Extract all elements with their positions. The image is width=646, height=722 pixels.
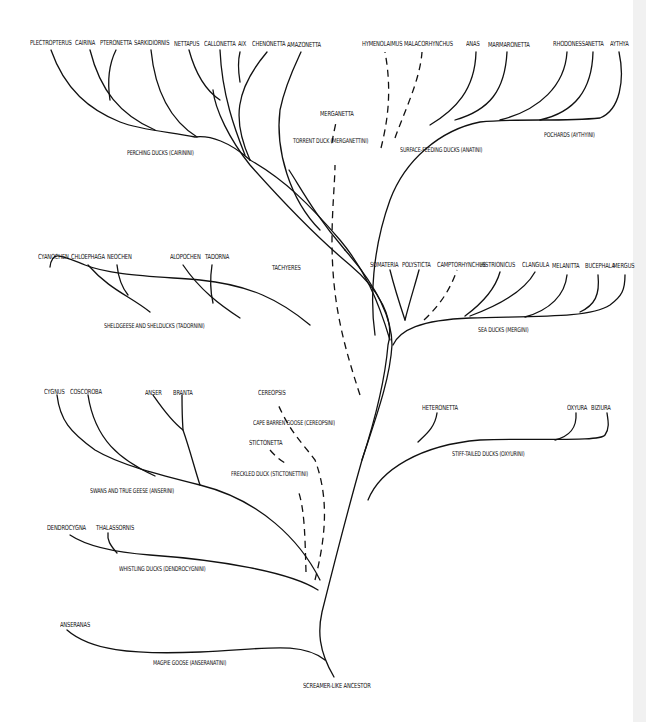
genus-label-neochen: NEOCHEN	[107, 253, 132, 261]
genus-label-malacorhynchus: MALACORHYNCHUS	[404, 40, 453, 48]
branch-oxyura	[555, 413, 576, 440]
branch-marmaronetta	[455, 52, 507, 120]
genus-label-marmaronetta: MARMARONETTA	[488, 41, 530, 49]
genus-label-heteronetta: HETERONETTA	[422, 404, 458, 412]
genus-label-stictonetta: STICTONETTA	[249, 439, 282, 447]
genus-label-oxyura: OXYURA	[567, 404, 587, 412]
genus-label-tachyeres: TACHYERES	[272, 264, 301, 272]
dashed-stictonetta	[298, 490, 306, 572]
branch-perching	[51, 50, 250, 160]
genus-label-alopochen: ALOPOCHEN	[170, 253, 201, 261]
genus-label-melanitta: MELANITTA	[552, 262, 579, 270]
genus-label-merganetta: MERGANETTA	[320, 110, 354, 118]
branch-chloephaga	[88, 265, 150, 312]
branch-melanitta	[525, 275, 567, 317]
genus-label-chenonetta: CHENONETTA	[252, 40, 285, 48]
genus-label-nettapus: NETTAPUS	[174, 40, 199, 48]
genus-label-cairina: CAIRINA	[75, 39, 95, 47]
dashed-merganetta	[332, 165, 360, 395]
branch-coscoroba	[88, 395, 155, 476]
branch-tachyeres	[289, 170, 345, 250]
genus-label-biziura: BIZIURA	[591, 404, 611, 412]
dashed-cereopsis	[277, 402, 324, 580]
genus-label-callonetta: CALLONETTA	[204, 40, 236, 48]
dashed-malacorhynchus	[395, 52, 422, 138]
branch-chenonetta	[239, 52, 267, 160]
dashed-hymenolaimus	[381, 52, 389, 148]
genus-label-dendrocygna: DENDROCYGNA	[47, 524, 86, 532]
tree-branches	[0, 0, 646, 722]
tribe-label-perching: PERCHING DUCKS (CAIRININI)	[127, 149, 194, 157]
tribe-label-magpie-goose: MAGPIE GOOSE (ANSERANATINI)	[153, 659, 226, 667]
branch-sarkidiornis	[151, 50, 197, 137]
dashed-stictonetta-top	[270, 450, 285, 463]
genus-label-chloephaga: CHLOEPHAGA	[71, 253, 105, 261]
genus-label-polysticta: POLYSTICTA	[402, 261, 431, 269]
tribe-label-freckled-duck: FRECKLED DUCK (STICTONETTINI)	[231, 470, 308, 478]
tribe-label-torrent: TORRENT DUCK (MERGANETTINI)	[293, 137, 368, 145]
branch-rhodonessa	[500, 52, 567, 120]
branch-pteronetta	[109, 50, 116, 100]
branch-branta	[182, 395, 183, 430]
genus-label-anas: ANAS	[466, 40, 480, 48]
genus-label-cygnus: CYGNUS	[44, 388, 65, 396]
genus-label-anseranas: ANSERANAS	[60, 621, 90, 629]
genus-label-histrionicus: HISTRIONICUS	[480, 261, 515, 269]
branch-aix	[239, 52, 241, 82]
genus-label-aix: AIX	[238, 40, 246, 48]
tribe-label-sheldgeese: SHELDGEESE AND SHELDUCKS (TADORNINI)	[104, 322, 205, 330]
phylogenetic-tree-diagram: PLECTROPTERUS CAIRINA PTERONETTA SARKIDI…	[0, 0, 646, 722]
genus-label-tadorna: TADORNA	[205, 253, 229, 261]
genus-label-pteronetta: PTERONETTA	[100, 39, 132, 47]
genus-label-bucephala: BUCEPHALA	[585, 262, 615, 270]
genus-label-clangula: CLANGULA	[522, 261, 549, 269]
branch-cairina	[90, 50, 155, 130]
branch-anser	[153, 395, 200, 485]
tribe-label-whistling: WHISTLING DUCKS (DENDROCYGNINI)	[119, 565, 206, 573]
branch-anas	[430, 52, 476, 125]
genus-label-somateria: SOMATERIA	[370, 261, 398, 269]
branch-netta	[540, 52, 593, 120]
genus-label-netta: NETTA	[588, 40, 604, 48]
genus-label-cereopsis: CEREOPSIS	[258, 389, 286, 397]
branch-whistling	[70, 535, 318, 590]
tribe-label-sea-ducks: SEA DUCKS (MERGINI)	[478, 326, 528, 334]
branch-heteronetta	[418, 413, 437, 442]
trunk-sea	[345, 250, 392, 460]
genus-label-plectropterus: PLECTROPTERUS	[30, 39, 72, 47]
branch-sea	[393, 275, 625, 345]
branch-bucephala	[580, 275, 598, 312]
genus-label-anser: ANSER	[145, 389, 162, 397]
genus-label-mergus: MERGUS	[613, 262, 634, 270]
root-label: SCREAMER-LIKE ANCESTOR	[303, 682, 371, 690]
branch-polysticta	[405, 270, 419, 320]
tribe-label-surface-feeding: SURFACE-FEEDING DUCKS (ANATINI)	[400, 146, 482, 154]
tribe-label-swans-geese: SWANS AND TRUE GEESE (ANSERINI)	[90, 487, 174, 495]
branch-somateria	[390, 270, 405, 320]
genus-label-camptorhynchus: CAMPTORHYNCHUS	[437, 261, 486, 269]
genus-label-cyanochen: CYANOCHEN	[38, 253, 69, 261]
tribe-label-stiff-tailed: STIFF-TAILED DUCKS (OXYURINI)	[452, 450, 524, 458]
trunk-upper	[250, 160, 390, 340]
genus-label-thalassornis: THALASSORNIS	[96, 524, 134, 532]
genus-label-hymenolaimus: HYMENOLAIMUS	[362, 40, 402, 48]
genus-label-rhodonessa: RHODONESSA	[553, 40, 588, 48]
genus-label-coscoroba: COSCOROBA	[70, 388, 102, 396]
tribe-label-cape-barren-goose: CAPE BARREN GOOSE (CEREOPSINI)	[253, 419, 335, 427]
tribe-label-pochards: POCHARDS (AYTHYINI)	[544, 131, 595, 139]
branch-histrionicus	[465, 272, 500, 316]
genus-label-amazonetta: AMAZONETTA	[287, 41, 321, 49]
branch-anseranas	[67, 630, 325, 660]
genus-label-branta: BRANTA	[173, 389, 193, 397]
genus-label-sarkidiornis: SARKIDIORNIS	[134, 39, 169, 47]
branch-nettapus	[189, 50, 220, 100]
branch-surface	[373, 52, 622, 335]
dashed-camptorhynchus	[424, 270, 457, 320]
trunk	[213, 90, 390, 677]
genus-label-aythya: AYTHYA	[610, 40, 629, 48]
branch-clangula	[470, 272, 535, 316]
